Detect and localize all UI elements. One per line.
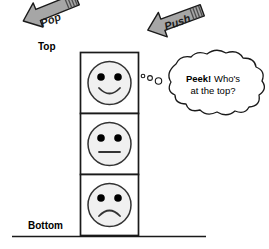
sad-face-icon — [88, 184, 131, 227]
stack-column — [81, 53, 139, 236]
stack-top-label: Top — [38, 42, 56, 52]
peek-bubble-text: Peek! Who'sat the top? — [176, 73, 250, 97]
stack-bottom-label: Bottom — [28, 221, 63, 231]
peek-bubble-bold: Peek! — [186, 73, 211, 84]
neutral-face-icon — [88, 123, 131, 166]
stack-cell-top — [81, 53, 139, 114]
stack-cell-middle — [81, 114, 139, 175]
happy-face-icon — [88, 62, 131, 105]
peek-bubble-rest: Who's — [211, 73, 240, 84]
stack-cell-bottom — [81, 175, 139, 236]
thought-trail — [141, 74, 162, 84]
stack-diagram — [0, 0, 269, 249]
peek-bubble-line2: at the top? — [191, 85, 236, 96]
